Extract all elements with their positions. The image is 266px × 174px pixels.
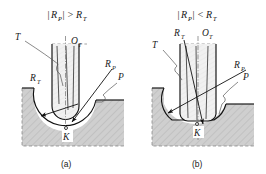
label-a-tool-axis-sub: T xyxy=(78,41,82,48)
label-a-contact-k: K xyxy=(62,132,70,142)
panel-b-title-bar-close: | xyxy=(192,9,195,20)
panel-a-title: | R P | > R T xyxy=(47,9,87,22)
panel-a-caption: (a) xyxy=(61,159,72,169)
label-b-part-radius-r: R xyxy=(233,60,240,70)
label-a-part-radius-r: R xyxy=(104,59,111,69)
label-b-contact-k: K xyxy=(193,128,201,138)
label-b-part-radius: R P xyxy=(233,60,245,72)
panel-b-title-rp: R xyxy=(180,9,187,20)
label-a-tool: T xyxy=(15,32,21,42)
panel-b-title-rt-sub: T xyxy=(213,15,217,22)
panel-b-title-relation: < xyxy=(197,9,204,20)
contact-point-b-k-marker xyxy=(196,123,199,126)
figure-root: | R P | > R T xyxy=(0,0,266,174)
label-b-tool-axis: O T xyxy=(202,28,213,40)
label-b-part: P xyxy=(242,72,249,82)
label-b-tool: T xyxy=(152,40,158,50)
panel-b: | R P | < R T xyxy=(152,9,254,169)
panel-a-title-rt-sub: T xyxy=(83,15,87,22)
contact-point-a-k-marker xyxy=(65,127,68,130)
tool-b-leader xyxy=(163,50,182,80)
label-b-tool-radius-sub: T xyxy=(181,33,185,40)
panel-b-title-rt: R xyxy=(205,9,212,20)
label-b-tool-axis-o: O xyxy=(202,28,209,38)
panel-b-caption: (b) xyxy=(192,159,203,169)
panel-a-title-rp: R xyxy=(50,9,57,20)
label-b-part-radius-sub: P xyxy=(240,65,245,72)
panel-a: | R P | > R T xyxy=(15,9,124,169)
label-b-tool-radius-r: R xyxy=(173,28,180,38)
panel-a-title-relation: > xyxy=(67,9,74,20)
part-a-leader xyxy=(95,83,117,102)
label-a-tool-radius-sub: T xyxy=(37,78,41,85)
label-a-contact-point: K xyxy=(62,130,73,142)
label-b-contact-point: K xyxy=(193,126,204,138)
label-b-tool-axis-sub: T xyxy=(209,33,213,40)
machining-geometry-figure: | R P | > R T xyxy=(0,0,266,174)
label-a-tool-axis-o: O xyxy=(71,36,78,46)
label-a-part-radius-sub: P xyxy=(111,64,116,71)
panel-a-title-bar-close: | xyxy=(62,9,65,20)
panel-b-title: | R P | < R T xyxy=(177,9,217,22)
label-a-part: P xyxy=(117,72,124,82)
label-a-part-radius: R P xyxy=(104,59,116,71)
panel-b-title-bar-open: | xyxy=(177,9,180,20)
panel-a-title-bar-open: | xyxy=(47,9,50,20)
label-a-tool-radius-r: R xyxy=(29,73,36,83)
panel-a-title-rt: R xyxy=(75,9,82,20)
label-b-tool-radius: R T xyxy=(173,28,185,40)
label-a-tool-radius: R T xyxy=(28,71,45,85)
